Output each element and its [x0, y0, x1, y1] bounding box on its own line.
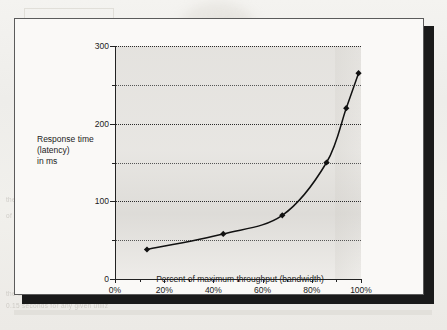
y-axis-title-line-2: (latency)	[37, 145, 94, 156]
y-axis-title-line-3: in ms	[37, 156, 94, 167]
x-axis-tick-label: 40%	[193, 285, 233, 295]
data-point-marker	[343, 105, 349, 111]
bleed-through-bar	[14, 310, 432, 315]
y-axis-tick-label: 0	[67, 274, 109, 284]
y-axis-tick-label: 200	[67, 119, 109, 129]
y-axis-title: Response time (latency) in ms	[37, 134, 94, 167]
data-point-marker	[355, 70, 361, 76]
y-axis-tick-label: 100	[67, 196, 109, 206]
data-point-marker	[144, 246, 150, 252]
y-axis-tick-label: 300	[67, 41, 109, 51]
data-series-line	[115, 44, 365, 280]
x-axis-tick-label: 60%	[243, 285, 283, 295]
plot-area	[115, 46, 361, 279]
x-axis-tick-label: 0%	[95, 285, 135, 295]
figure-frame: Response time (latency) in ms 0100200300…	[14, 18, 424, 295]
x-axis-title: Percent of maximum throughput (bandwidth…	[115, 274, 365, 284]
y-axis-title-line-1: Response time	[37, 134, 94, 145]
x-axis-tick-label: 100%	[341, 285, 381, 295]
data-point-marker	[220, 231, 226, 237]
x-axis-tick-label: 20%	[144, 285, 184, 295]
x-axis-tick-label: 80%	[292, 285, 332, 295]
